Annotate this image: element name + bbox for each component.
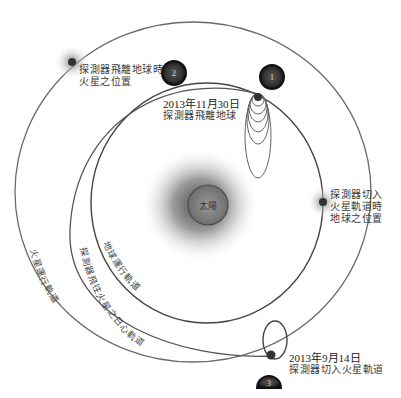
arrival-text: 探測器切入火星軌道 [289, 364, 384, 376]
svg-text:1: 1 [270, 73, 274, 82]
mars-icon [68, 58, 76, 66]
mars-orbit-label: 火星運行軌道 [28, 248, 62, 306]
earth-at-arrival-annotation: 探測器切入 火星軌道時 地球之位置 [330, 189, 383, 225]
badge-1: 1 [260, 65, 284, 89]
sun-label: 太陽 [199, 200, 217, 211]
departure-text: 探測器飛離地球 [163, 110, 240, 122]
arrival-date: 2013年9月14日 [289, 352, 384, 364]
departure-date: 2013年11月30日 [163, 98, 240, 110]
badge-3: 3 [257, 376, 281, 388]
earth-departure-icon [254, 93, 262, 101]
probe-at-mars-icon [267, 351, 276, 360]
phasing-loops [245, 94, 271, 178]
arrival-annotation: 2013年9月14日 探測器切入火星軌道 [289, 352, 384, 376]
badge-2: 2 [162, 61, 186, 85]
svg-text:3: 3 [267, 379, 271, 388]
mars-mission-orbit-diagram: 太陽 1 2 3 [0, 0, 401, 398]
mars-at-departure-annotation: 探測器飛離地球時 火星之位置 [79, 64, 163, 88]
svg-text:2: 2 [172, 69, 176, 78]
earth-arrival-icon [319, 198, 327, 206]
departure-annotation: 2013年11月30日 探測器飛離地球 [163, 98, 240, 122]
